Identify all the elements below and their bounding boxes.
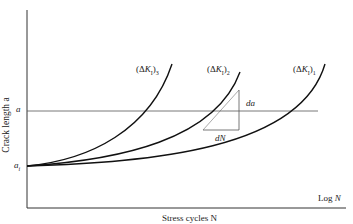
- curve-label-dK2: (ΔKI)2: [207, 64, 230, 76]
- crack-growth-plot: [0, 0, 353, 224]
- curve-label-dK1: (ΔKI)1: [293, 64, 316, 76]
- x-axis-label: Stress cycles N: [162, 213, 217, 223]
- curve-dK2: [27, 72, 240, 166]
- log-n-label: Log N: [318, 193, 341, 203]
- da-label: da: [246, 98, 255, 108]
- level-ai-label: ai: [14, 160, 20, 172]
- curve-label-dK3: (ΔKI)3: [136, 64, 159, 76]
- slope-triangle-hypotenuse: [203, 90, 239, 130]
- level-a-label: a: [16, 104, 21, 114]
- curve-dK1: [27, 64, 325, 166]
- dN-label: dN: [215, 133, 226, 143]
- curve-dK3: [27, 64, 172, 166]
- y-axis-label: Crack length a: [1, 97, 11, 152]
